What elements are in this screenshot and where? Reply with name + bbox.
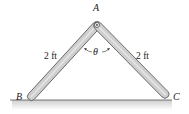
bar-ab	[26, 20, 102, 102]
point-a-label: A	[93, 3, 99, 13]
bar-ab-length-label: 2 ft	[44, 52, 57, 62]
ground	[10, 100, 172, 110]
two-bar-frame-diagram: A B C 2 ft 2 ft θ	[0, 0, 189, 114]
ground-hatch	[12, 100, 172, 110]
point-c-label: C	[173, 92, 180, 102]
angle-theta-label: θ	[93, 47, 98, 57]
bar-ac	[92, 20, 171, 100]
bar-ac-length-label: 2 ft	[136, 52, 149, 62]
diagram-canvas	[0, 0, 189, 114]
point-b-label: B	[16, 92, 22, 102]
pin-a	[94, 22, 99, 27]
